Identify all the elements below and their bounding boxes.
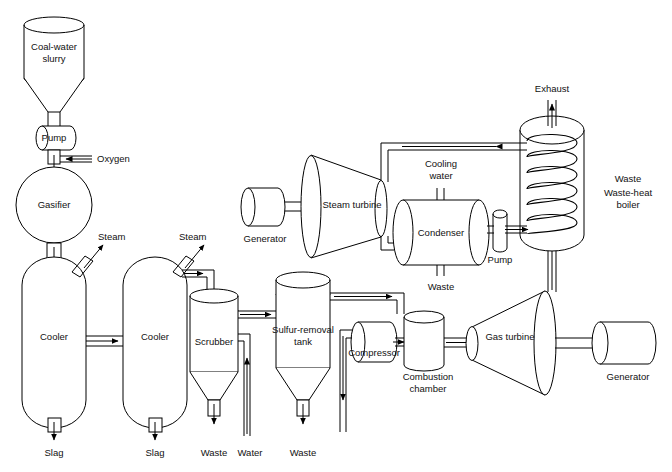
waste-scrubber-label: Waste bbox=[201, 447, 228, 458]
generator-gas: Generator bbox=[592, 322, 656, 382]
compressor-air-intake bbox=[340, 330, 352, 432]
coal-water-slurry-label-line1: Coal-water bbox=[31, 41, 77, 52]
waste-sulfur-label: Waste bbox=[290, 447, 317, 458]
coal-water-slurry-label-line2: slurry bbox=[42, 53, 65, 64]
sulfur-to-combustion-pipe bbox=[330, 293, 404, 314]
process-flow-diagram: Coal-water slurry Pump Oxygen Gasifier C… bbox=[0, 0, 672, 472]
steamturbine-generator-shaft bbox=[283, 202, 301, 211]
cooler-2: Cooler bbox=[123, 257, 187, 428]
combustion-chamber-label-line2: chamber bbox=[410, 383, 447, 394]
exhaust-label: Exhaust bbox=[535, 83, 570, 94]
gasifier-label: Gasifier bbox=[38, 199, 71, 210]
slurry-pump-label: Pump bbox=[42, 132, 67, 143]
water-label: Water bbox=[238, 447, 263, 458]
combustion-chamber: Combustion chamber bbox=[403, 311, 454, 394]
cooling-water-in: Cooling water bbox=[425, 158, 457, 200]
gas-turbine: Gas turbine bbox=[466, 291, 556, 395]
generator-steam: Generator bbox=[241, 188, 286, 244]
cooler-1-label: Cooler bbox=[40, 331, 68, 342]
cooler1-to-cooler2-pipe bbox=[86, 336, 123, 346]
generator-steam-label: Generator bbox=[244, 233, 287, 244]
waste-heat-boiler: Waste Waste-heat boiler bbox=[503, 116, 652, 251]
gasifier: Gasifier bbox=[16, 167, 92, 243]
compressor: Compressor bbox=[348, 322, 400, 362]
waste-label-boiler: Waste bbox=[615, 173, 642, 184]
oxygen-feed-pipe: Oxygen bbox=[60, 153, 130, 164]
waste-heat-boiler-label-line2: boiler bbox=[616, 199, 639, 210]
gasturbine-generator-shaft bbox=[555, 338, 595, 348]
scrubber: Scrubber bbox=[190, 289, 238, 400]
cooling-water-label-line1: Cooling bbox=[425, 158, 457, 169]
condensate-pump-label: Pump bbox=[488, 254, 513, 265]
sulfur-removal-tank: Sulfur-removal tank bbox=[272, 272, 334, 400]
scrubber-label: Scrubber bbox=[195, 336, 234, 347]
waste-out-scrubber: Waste bbox=[201, 400, 228, 458]
slag-2-label: Slag bbox=[145, 447, 164, 458]
cooler-2-label: Cooler bbox=[141, 331, 169, 342]
steam-turbine: Steam turbine bbox=[301, 155, 387, 258]
waste-out-sulfur: Waste bbox=[290, 400, 317, 458]
waste-out-condenser: Waste bbox=[428, 265, 455, 292]
steam-1-label: Steam bbox=[98, 231, 126, 242]
coal-water-slurry-hopper: Coal-water slurry bbox=[24, 17, 84, 112]
steam-turbine-label: Steam turbine bbox=[322, 199, 381, 210]
condensate-pump: Pump bbox=[488, 210, 513, 265]
combustion-chamber-label-line1: Combustion bbox=[403, 371, 454, 382]
gas-turbine-label: Gas turbine bbox=[485, 331, 534, 342]
cooler-1: Cooler bbox=[22, 257, 86, 428]
oxygen-label: Oxygen bbox=[97, 153, 130, 164]
waste-heat-boiler-label-line1: Waste-heat bbox=[604, 187, 653, 198]
slurry-downpipe bbox=[48, 112, 60, 126]
steam-2-label: Steam bbox=[179, 231, 207, 242]
slurry-pump: Pump bbox=[36, 126, 76, 150]
waste-condenser-label: Waste bbox=[428, 281, 455, 292]
sulfur-removal-label-line2: tank bbox=[294, 336, 312, 347]
condenser-label: Condenser bbox=[418, 227, 464, 238]
scrubber-to-sulfur-pipe bbox=[238, 311, 276, 318]
sulfur-removal-label-line1: Sulfur-removal bbox=[272, 324, 334, 335]
compressor-label: Compressor bbox=[348, 347, 400, 358]
condenser: Condenser bbox=[393, 200, 489, 265]
slag-1-label: Slag bbox=[44, 447, 63, 458]
water-in-scrubber: Water bbox=[238, 334, 263, 458]
generator-gas-label: Generator bbox=[607, 371, 650, 382]
cooling-water-label-line2: water bbox=[428, 170, 452, 181]
